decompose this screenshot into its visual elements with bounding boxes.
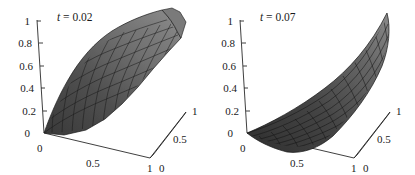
z-tick-3-left: 0.6 [19, 60, 33, 72]
z-tick-0-right: 0 [228, 127, 234, 139]
z-tick-2-left: 0.4 [20, 82, 34, 94]
surface-plot-figure: t = 0.02 0 0.2 0.4 0.6 0.8 1 0 0.5 1 0 0… [0, 0, 415, 175]
y-tick-2-right: 1 [396, 105, 402, 117]
x-tick-1-left: 0.5 [86, 157, 100, 169]
surface-plot-right: t = 0.07 0 0.2 0.4 0.6 0.8 1 0 0.5 1 0 0… [207, 0, 415, 175]
y-tick-1-left: 0.5 [173, 133, 187, 145]
y-tick-0-left: 0 [159, 162, 165, 174]
z-tick-labels-right: 0 0.2 0.4 0.6 0.8 1 [221, 15, 239, 139]
surface-plot-left: t = 0.02 0 0.2 0.4 0.6 0.8 1 0 0.5 1 0 0… [0, 0, 207, 175]
y-tick-2-left: 1 [192, 105, 198, 117]
x-tick-0-left: 0 [37, 142, 43, 154]
surface-mesh-left [44, 5, 186, 157]
z-tick-labels-left: 0 0.2 0.4 0.6 0.8 1 [18, 15, 36, 139]
panel-title-left: t = 0.02 [57, 11, 93, 23]
z-tick-1-right: 0.2 [225, 105, 239, 117]
x-tick-2-right: 1 [351, 162, 357, 174]
y-tick-1-right: 0.5 [377, 133, 391, 145]
z-tick-5-right: 1 [228, 15, 234, 27]
surface-panel-left: t = 0.02 0 0.2 0.4 0.6 0.8 1 0 0.5 1 0 0… [0, 0, 207, 175]
x-tick-labels-left: 0 0.5 1 [37, 142, 153, 174]
axis-z-left [37, 20, 47, 133]
title-value-left: 0.02 [72, 11, 92, 23]
title-value-right: 0.07 [275, 11, 295, 23]
z-tick-5-left: 1 [25, 15, 31, 27]
x-tick-2-left: 1 [147, 162, 153, 174]
panel-title-right: t = 0.07 [260, 11, 296, 23]
z-tick-4-left: 0.8 [18, 37, 32, 49]
surface-mesh-right [247, 13, 390, 153]
z-tick-1-left: 0.2 [22, 105, 36, 117]
z-tick-4-right: 0.8 [221, 37, 235, 49]
z-tick-3-right: 0.6 [222, 60, 236, 72]
y-tick-0-right: 0 [363, 162, 369, 174]
axis-z-right [240, 20, 250, 133]
surface-panel-right: t = 0.07 0 0.2 0.4 0.6 0.8 1 0 0.5 1 0 0… [207, 0, 414, 175]
z-tick-2-right: 0.4 [223, 82, 237, 94]
x-tick-1-right: 0.5 [290, 157, 304, 169]
z-tick-0-left: 0 [25, 127, 31, 139]
x-tick-0-right: 0 [240, 142, 246, 154]
